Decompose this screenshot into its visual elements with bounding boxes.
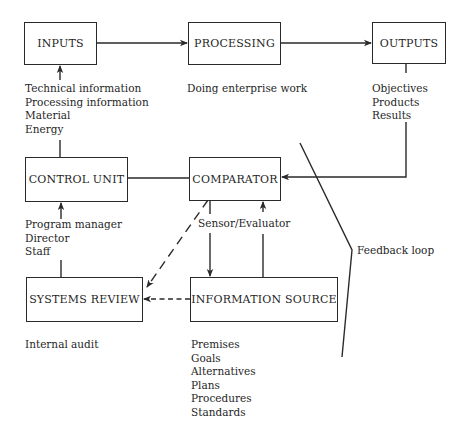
processing-box: PROCESSING [188,22,281,65]
information-source-items: Premises Goals Alternatives Plans Proced… [191,338,256,419]
inputs-item: Technical information [25,82,149,96]
arrow-outputs-to-comparator [282,122,406,177]
control-unit-item: Staff [25,245,122,259]
inputs-box: INPUTS [24,22,97,65]
control-unit-item: Program manager [25,218,122,232]
information-source-label: INFORMATION SOURCE [191,293,336,306]
outputs-label: OUTPUTS [380,37,438,50]
systems-review-description: Internal audit [25,338,98,352]
sensor-evaluator-label: Sensor/Evaluator [198,217,290,231]
information-source-item: Procedures [191,392,256,406]
information-source-box: INFORMATION SOURCE [190,277,338,322]
comparator-box: COMPARATOR [189,157,281,201]
information-source-item: Plans [191,379,256,393]
outputs-items: Objectives Products Results [372,82,428,123]
comparator-label: COMPARATOR [192,173,277,186]
control-unit-item: Director [25,232,122,246]
outputs-box: OUTPUTS [372,22,446,64]
information-source-item: Standards [191,406,256,420]
control-unit-box: CONTROL UNIT [25,157,128,202]
inputs-item: Energy [25,123,149,137]
outputs-item: Objectives [372,82,428,96]
outputs-item: Products [372,96,428,110]
processing-description: Doing enterprise work [187,82,307,96]
inputs-label: INPUTS [37,37,84,50]
outputs-item: Results [372,109,428,123]
processing-label: PROCESSING [194,37,275,50]
inputs-item: Material [25,109,149,123]
control-unit-items: Program manager Director Staff [25,218,122,259]
inputs-item: Processing information [25,96,149,110]
feedback-loop-line [300,143,352,357]
information-source-item: Premises [191,338,256,352]
information-source-item: Alternatives [191,365,256,379]
inputs-items: Technical information Processing informa… [25,82,149,136]
systems-review-box: SYSTEMS REVIEW [26,277,143,322]
control-unit-label: CONTROL UNIT [29,173,124,186]
dashed-arrow-comparator-to-review [147,200,208,287]
systems-review-label: SYSTEMS REVIEW [29,293,140,306]
feedback-loop-label: Feedback loop [357,244,434,258]
information-source-item: Goals [191,352,256,366]
